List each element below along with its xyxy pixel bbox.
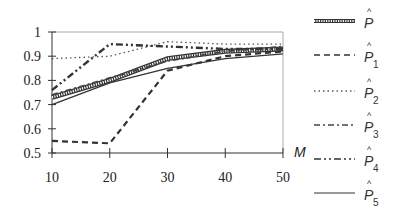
legend: ^P^P1^P2^P3^P4^P5 bbox=[314, 7, 379, 208]
x-tick-label: 50 bbox=[276, 170, 290, 185]
x-axis-title: M bbox=[294, 144, 306, 160]
legend-subscript: 5 bbox=[373, 197, 379, 208]
y-tick-label: 0.6 bbox=[24, 122, 42, 137]
x-tick-label: 40 bbox=[218, 170, 232, 185]
x-tick-label: 30 bbox=[161, 170, 175, 185]
y-tick-label: 0.7 bbox=[24, 98, 42, 113]
y-tick-label: 1 bbox=[34, 25, 41, 40]
series-line-p1-hat bbox=[52, 51, 283, 143]
legend-subscript: 2 bbox=[373, 95, 379, 106]
y-tick-label: 0.8 bbox=[24, 73, 42, 88]
line-chart: 0.50.60.70.80.911020304050M ^P^P1^P2^P3^… bbox=[0, 0, 398, 220]
legend-label: P bbox=[364, 15, 374, 31]
legend-subscript: 4 bbox=[373, 163, 379, 174]
plot-area: 0.50.60.70.80.911020304050M bbox=[24, 25, 307, 185]
x-tick-label: 10 bbox=[45, 170, 59, 185]
y-tick-label: 0.9 bbox=[24, 49, 42, 64]
legend-subscript: 1 bbox=[373, 59, 379, 70]
legend-subscript: 3 bbox=[373, 129, 379, 140]
y-tick-label: 0.5 bbox=[24, 146, 42, 161]
x-tick-label: 20 bbox=[103, 170, 117, 185]
